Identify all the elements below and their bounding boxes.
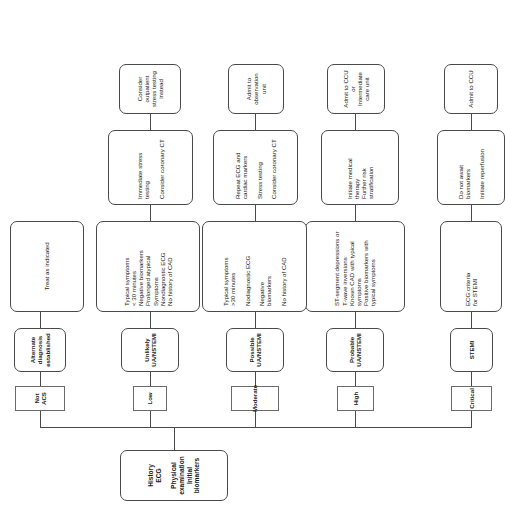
- management-low-text: Immediate stress testing Consider corona…: [136, 139, 165, 199]
- disposition-high[interactable]: Admit to CCU or Intermediate care unit: [327, 64, 385, 114]
- connector-trunk-low: [150, 411, 151, 428]
- connector-moderate-diagnosis: [255, 372, 256, 386]
- connector-diagnosis-criteria-critical: [471, 312, 472, 328]
- risk-level-high[interactable]: High: [337, 386, 374, 411]
- connector-trunk-critical: [471, 411, 472, 428]
- diagnosis-stemi[interactable]: STEMI: [450, 328, 493, 372]
- management-critical-text: Do not await biomarkers Initiate reperfu…: [457, 149, 486, 199]
- disposition-low-text: Consider outpatient stress testing inste…: [136, 71, 165, 107]
- management-critical[interactable]: Do not await biomarkers Initiate reperfu…: [437, 130, 505, 205]
- risk-level-high-label: High: [352, 392, 359, 406]
- management-low[interactable]: Immediate stress testing Consider corona…: [108, 130, 193, 205]
- connector-trunk-high: [355, 411, 356, 428]
- connector-management-disposition-critical: [471, 114, 472, 130]
- connector-root-trunk: [174, 428, 175, 450]
- connector-criteria-management-low: [150, 205, 151, 221]
- risk-level-not-acs-label: Not ACS: [33, 390, 47, 407]
- disposition-low[interactable]: Consider outpatient stress testing inste…: [119, 64, 181, 114]
- connector-diagnosis-criteria-notacs: [40, 312, 41, 328]
- criteria-not-acs-treat-text: Treat as indicated: [43, 242, 50, 290]
- management-high[interactable]: Initiate medical therapy Further risk st…: [321, 130, 399, 205]
- connector-management-disposition-moderate: [255, 114, 256, 130]
- criteria-moderate[interactable]: Typical symptoms >30 minutes Nodiagnosti…: [202, 221, 307, 312]
- risk-level-not-acs[interactable]: Not ACS: [15, 386, 65, 411]
- criteria-high[interactable]: ST-segment depressions or T-wave inversi…: [305, 221, 405, 312]
- connector-management-disposition-low: [150, 114, 151, 130]
- risk-level-critical[interactable]: Critical: [451, 386, 492, 411]
- management-high-text: Initiate medical therapy Further risk st…: [346, 158, 375, 199]
- criteria-high-text: ST-segment depressions or T-wave inversi…: [333, 231, 376, 306]
- risk-level-low[interactable]: Low: [133, 386, 167, 411]
- connector-high-diagnosis: [355, 372, 356, 386]
- connector-low-diagnosis: [150, 372, 151, 386]
- connector-critical-diagnosis: [471, 372, 472, 386]
- connector-criteria-management-moderate: [255, 205, 256, 221]
- connector-criteria-management-critical: [471, 205, 472, 221]
- disposition-critical-text: Admit to CCU: [467, 70, 474, 107]
- management-moderate[interactable]: Repeat ECG and cardiac markers Stress te…: [213, 130, 298, 205]
- criteria-stemi-text: ECG criteria for STEMI: [464, 273, 478, 306]
- criteria-low-text: Typical symptoms < 30 minutes Negative b…: [123, 250, 173, 306]
- connector-diagnosis-criteria-high: [355, 312, 356, 328]
- disposition-moderate-text: Admit to observation unit: [245, 73, 267, 105]
- diagnosis-stemi-label: STEMI: [468, 341, 475, 360]
- risk-level-critical-label: Critical: [468, 388, 475, 409]
- diagnosis-possible-ua-nstemi[interactable]: Possible UA/NSTEMI: [226, 328, 284, 372]
- disposition-moderate[interactable]: Admit to observation unit: [228, 64, 284, 114]
- connector-trunk-notacs: [40, 411, 41, 428]
- connector-trunk-moderate: [255, 411, 256, 428]
- connector-diagnosis-criteria-low: [150, 312, 151, 328]
- connector-management-disposition-high: [355, 114, 356, 130]
- connector-trunk: [40, 427, 472, 428]
- diagnosis-possible-ua-nstemi-label: Possible UA/NSTEMI: [248, 333, 262, 367]
- diagnosis-alternate-established[interactable]: Alternate diagnosis established: [14, 328, 66, 372]
- risk-level-moderate[interactable]: Moderate: [231, 386, 279, 411]
- disposition-high-text: Admit to CCU or Intermediate care unit: [342, 70, 371, 107]
- risk-level-moderate-label: Moderate: [251, 385, 258, 412]
- criteria-moderate-text: Typical symptoms >30 minutes Nodiagnosti…: [222, 256, 287, 306]
- diagnosis-probable-ua-nstemi-label: Probable UA/NSTEMI: [348, 333, 362, 367]
- disposition-critical[interactable]: Admit to CCU: [444, 64, 498, 114]
- connector-diagnosis-criteria-moderate: [255, 312, 256, 328]
- diagnosis-unlikely-ua-nstemi-label: Unlikely UA/NSTEMI: [143, 333, 157, 367]
- criteria-stemi[interactable]: ECG criteria for STEMI: [440, 221, 502, 312]
- connector-criteria-management-high: [355, 205, 356, 221]
- criteria-low[interactable]: Typical symptoms < 30 minutes Negative b…: [96, 221, 200, 312]
- management-moderate-text: Repeat ECG and cardiac markers Stress te…: [234, 139, 277, 199]
- diagnosis-alternate-established-label: Alternate diagnosis established: [29, 333, 51, 367]
- root-node: History ECG Physical examination Initial…: [120, 450, 228, 501]
- risk-level-low-label: Low: [146, 392, 153, 404]
- diagnosis-unlikely-ua-nstemi[interactable]: Unlikely UA/NSTEMI: [121, 328, 179, 372]
- diagnosis-probable-ua-nstemi[interactable]: Probable UA/NSTEMI: [326, 328, 384, 372]
- criteria-not-acs-treat[interactable]: Treat as indicated: [10, 221, 84, 312]
- root-node-label: History ECG Physical examination Initial…: [147, 454, 201, 497]
- connector-notacs-diagnosis: [40, 372, 41, 386]
